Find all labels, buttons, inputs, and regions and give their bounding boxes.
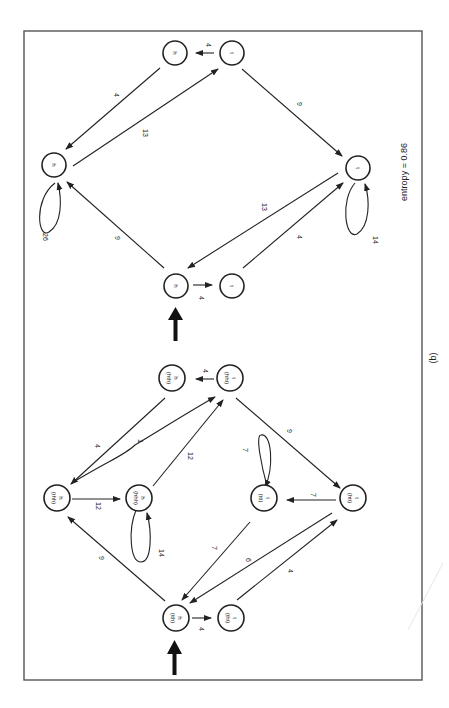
top-graph: h t h t h t 4 9 13 4 26 14 4 13 4 9 <box>40 41 379 341</box>
edge-label: 7 <box>242 448 249 452</box>
edge-label: 7 <box>211 546 218 550</box>
edge-label: 14 <box>158 549 165 557</box>
edge-label: 4 <box>94 444 101 448</box>
edge-label: 1 <box>137 439 144 443</box>
svg-text:(thh): (thh) <box>51 492 57 504</box>
scan-artifact <box>408 563 443 630</box>
edge-label: 13 <box>261 203 268 211</box>
edge-htt-to-tth <box>190 513 332 603</box>
svg-text:h: h <box>58 496 64 499</box>
edge-hth-to-thh <box>71 398 165 484</box>
figure-caption: (b) <box>428 352 438 363</box>
start-arrow-icon <box>168 307 183 341</box>
svg-text:h: h <box>140 496 146 499</box>
svg-text:(hhh): (hhh) <box>133 491 139 505</box>
node-label: h <box>173 284 179 287</box>
svg-text:(tht): (tht) <box>225 613 231 624</box>
svg-text:(ttt): (ttt) <box>258 494 264 503</box>
edge-label: 4 <box>287 569 294 573</box>
entropy-label: entropy = 0.86 <box>399 143 409 201</box>
edge-label: 26 <box>42 233 49 241</box>
node-label: h <box>51 163 57 166</box>
markov-diagram: h t h t h t 4 9 13 4 26 14 4 13 4 9 <box>0 0 449 708</box>
edge-label: 6 <box>245 558 252 562</box>
edge-label: 7 <box>310 493 317 497</box>
edge-t-top-to-t-main <box>242 69 342 156</box>
edge-label: 4 <box>198 627 205 631</box>
edge-ttt-to-tth <box>182 522 250 600</box>
bottom-graph: h (tth) t (tht) h (thh) h (hhh) t (ttt) … <box>44 365 366 675</box>
edge-h-main-to-t-top <box>73 69 218 166</box>
edge-label: 14 <box>372 236 379 244</box>
edge-label: 4 <box>205 43 212 47</box>
self-loop-ttt <box>259 435 271 487</box>
edge-label: 4 <box>113 93 120 97</box>
node-label: h <box>172 51 178 54</box>
self-loop-h-main <box>40 183 61 233</box>
edge-label: 4 <box>202 369 209 373</box>
edge-label: 4 <box>198 296 205 300</box>
self-loop-t-main <box>346 183 368 235</box>
edge-hht-to-htt <box>236 398 340 488</box>
self-loop-hhh <box>131 510 150 562</box>
svg-text:h: h <box>177 616 183 619</box>
edge-label: 9 <box>98 556 105 560</box>
edge-label: 9 <box>114 236 121 240</box>
edge-start-h-to-h-main <box>67 182 164 268</box>
edge-label: 9 <box>296 102 303 106</box>
edge-label: 13 <box>142 129 149 137</box>
edge-label: 12 <box>187 452 194 460</box>
svg-text:h: h <box>173 376 179 379</box>
svg-text:(htt): (htt) <box>347 493 353 504</box>
edge-label: 12 <box>95 502 102 510</box>
edge-t-main-to-start-h <box>188 173 338 268</box>
svg-text:(hht): (hht) <box>224 372 230 384</box>
svg-text:(tth): (tth) <box>170 613 176 624</box>
edge-label: 4 <box>296 235 303 239</box>
svg-text:(hth): (hth) <box>166 372 172 384</box>
edge-start-t-to-t-main <box>243 183 343 268</box>
edge-label: 9 <box>286 429 293 433</box>
start-arrow-icon <box>167 640 182 675</box>
